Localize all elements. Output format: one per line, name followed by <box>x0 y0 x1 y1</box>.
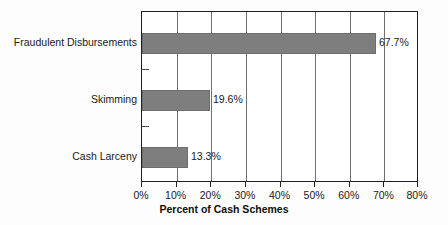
plot-area <box>141 11 418 182</box>
bar-cash-larceny <box>142 147 188 168</box>
bar-value-label: 67.7% <box>379 37 409 48</box>
bar-skimming <box>142 90 210 111</box>
x-axis-tick <box>141 182 142 187</box>
category-tick <box>142 69 149 70</box>
x-axis-title: Percent of Cash Schemes <box>0 203 448 216</box>
bar-fraudulent-disbursements <box>142 33 376 54</box>
x-axis-tick-label: 70% <box>373 189 394 201</box>
x-axis-tick <box>349 182 350 187</box>
x-axis-tick <box>280 182 281 187</box>
x-axis-tick-label: 40% <box>269 189 290 201</box>
x-axis-tick <box>383 182 384 187</box>
bar-value-label: 13.3% <box>191 151 221 162</box>
category-label-skimming: Skimming <box>0 94 137 105</box>
x-axis-tick <box>314 182 315 187</box>
x-axis-tick-label: 30% <box>234 189 255 201</box>
category-axis: Fraudulent Disbursements Skimming Cash L… <box>0 11 137 182</box>
x-axis-tick <box>210 182 211 187</box>
x-axis-tick <box>245 182 246 187</box>
category-tick <box>142 126 149 127</box>
x-axis-tick <box>176 182 177 187</box>
x-axis-tick-label: 0% <box>133 189 148 201</box>
x-axis-tick <box>417 182 418 187</box>
bar-chart: 67.7% 19.6% 13.3% Fraudulent Disbursemen… <box>0 0 448 225</box>
category-label-cash-larceny: Cash Larceny <box>0 151 137 162</box>
x-axis-tick-label: 80% <box>406 189 427 201</box>
x-axis-tick-label: 20% <box>200 189 221 201</box>
x-axis-tick-label: 10% <box>165 189 186 201</box>
bar-value-label: 19.6% <box>213 94 243 105</box>
category-label-fraudulent-disbursements: Fraudulent Disbursements <box>0 37 137 48</box>
x-axis-tick-label: 50% <box>304 189 325 201</box>
x-axis-tick-label: 60% <box>338 189 359 201</box>
